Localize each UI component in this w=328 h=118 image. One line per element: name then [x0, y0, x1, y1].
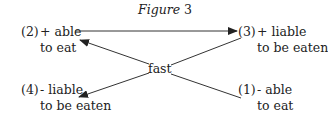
edge-3-to-fast [171, 38, 241, 65]
edge-fast-to-2 [80, 40, 149, 64]
edge-fast-to-4 [79, 73, 149, 97]
edge-1-to-fast [171, 74, 241, 98]
